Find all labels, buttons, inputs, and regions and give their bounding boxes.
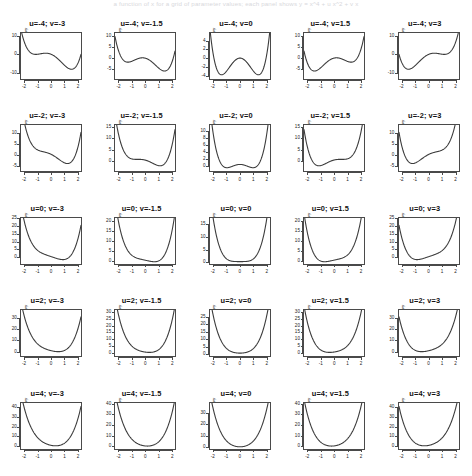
plot-area: y^4 + uy^2 + vy010203040-2-1012 [114,402,176,450]
y-tick-label: 0 [14,349,17,354]
plot-area: y^4 + uy^2 + vy-50510-2-1012 [398,124,460,172]
x-axis-ticks: -2-1012 [20,357,82,371]
x-tick-mark [402,80,403,83]
plot-box [114,217,176,265]
x-tick-mark [253,265,254,268]
y-tick-label: 20 [295,218,300,223]
x-axis-ticks: -2-1012 [209,357,271,371]
y-tick-label: 0 [14,443,17,448]
x-tick-label: 0 [427,85,430,90]
y-tick-label: 20 [295,423,300,428]
x-tick-label: -1 [413,455,417,460]
plot-area: y^4 + uy^2 + vy05101520-2-1012 [114,217,176,265]
plot-box [114,309,176,357]
panel-title: u=4; v=-3 [0,389,94,398]
plot-box [303,309,365,357]
quartic-curve [115,37,175,71]
x-tick-mark [38,80,39,83]
curve-svg [210,125,270,171]
plot-area: y^4 + uy^2 + vy051015-2-1012 [209,217,271,265]
x-tick-mark [78,265,79,268]
panel-title: u=0; v=3 [378,204,472,213]
panel-title: u=-4; v=0 [189,19,283,28]
x-tick-label: 0 [50,455,53,460]
x-tick-label: -2 [305,362,309,367]
x-tick-label: -1 [130,85,134,90]
x-tick-mark [429,265,430,268]
x-tick-label: 2 [360,362,363,367]
plot-box [398,309,460,357]
y-tick-label: 0 [109,159,112,164]
x-tick-mark [348,450,349,453]
y-tick-label: 0 [297,444,300,449]
x-tick-mark [213,172,214,175]
panel-grid: u=-4; v=-3y^4 + uy^2 + vy-10010-2-1012u=… [0,14,472,476]
y-tick-label: 30 [389,415,394,420]
y-axis-ticks: 051015 [193,217,209,265]
quartic-curve [115,218,175,262]
x-tick-label: 1 [158,85,161,90]
x-tick-label: 0 [333,455,336,460]
y-tick-label: 0 [109,444,112,449]
plot-area: y^4 + uy^2 + vy0246810-2-1012 [209,124,271,172]
y-tick-label: 25 [12,216,17,221]
x-tick-mark [267,450,268,453]
y-tick-label: 5 [297,248,300,253]
x-tick-mark [132,172,133,175]
plot-panel: u=4; v=-3y^4 + uy^2 + vy010203040-2-1012 [0,384,94,476]
y-tick-label: 20 [12,327,17,332]
x-tick-mark [51,265,52,268]
x-tick-mark [64,357,65,360]
x-tick-label: 2 [171,270,174,275]
x-tick-mark [348,172,349,175]
plot-panel: u=4; v=-1.5y^4 + uy^2 + vy010203040-2-10… [94,384,188,476]
y-tick-label: 10 [389,131,394,136]
y-tick-label: 15 [106,330,111,335]
x-tick-mark [226,172,227,175]
plot-box [114,32,176,80]
panel-title: u=-2; v=3 [378,111,472,120]
x-tick-label: -1 [35,362,39,367]
x-axis-ticks: -2-1012 [398,265,460,279]
plot-box [20,309,82,357]
x-tick-mark [253,80,254,83]
x-tick-mark [361,172,362,175]
x-tick-mark [415,357,416,360]
y-tick-label: 6 [203,143,206,148]
y-tick-label: 20 [295,323,300,328]
y-tick-label: 0 [203,56,206,61]
panel-title: u=-2; v=-1.5 [94,111,188,120]
x-tick-mark [321,172,322,175]
x-tick-label: -1 [413,362,417,367]
x-tick-mark [226,357,227,360]
y-tick-label: 30 [200,411,205,416]
x-axis-ticks: -2-1012 [398,357,460,371]
plot-box [398,32,460,80]
x-tick-mark [213,357,214,360]
x-tick-label: -2 [400,362,404,367]
y-tick-label: 2 [203,156,206,161]
x-tick-label: -2 [22,178,26,183]
x-tick-mark [307,265,308,268]
x-tick-label: -2 [22,455,26,460]
x-tick-label: -2 [305,270,309,275]
x-tick-label: 2 [77,85,80,90]
x-tick-mark [24,265,25,268]
plot-panel: u=-2; v=3y^4 + uy^2 + vy-50510-2-1012 [378,106,472,198]
x-tick-mark [118,80,119,83]
panel-title: u=2; v=-3 [0,296,94,305]
y-tick-label: 10 [12,131,17,136]
x-tick-label: 2 [265,85,268,90]
y-axis-ticks: -50510 [287,32,303,80]
plot-area: y^4 + uy^2 + vy051015202530-2-1012 [114,309,176,357]
curve-svg [21,33,81,79]
x-tick-mark [415,265,416,268]
x-tick-label: 0 [144,85,147,90]
y-tick-label: -5 [107,67,111,72]
quartic-curve [304,403,364,446]
y-tick-label: 40 [295,401,300,406]
x-tick-label: 0 [239,85,242,90]
y-tick-label: 5 [14,247,17,252]
y-tick-label: 15 [295,330,300,335]
x-tick-mark [132,80,133,83]
